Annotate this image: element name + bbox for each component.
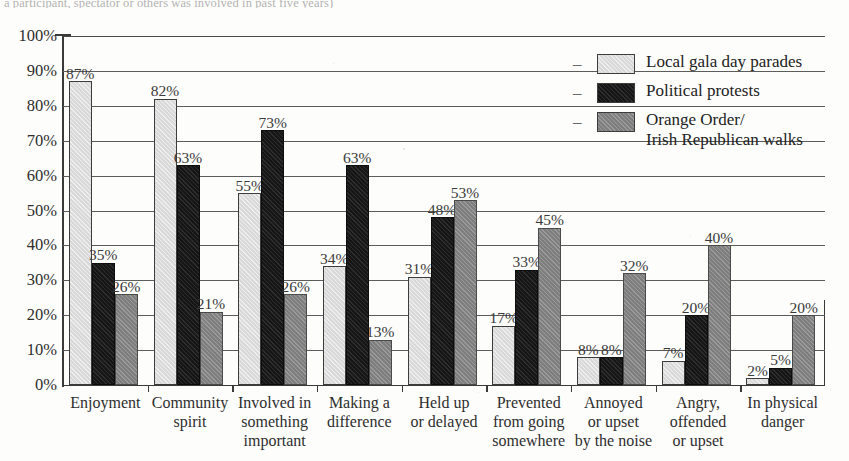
y-tick-label-0: 0% bbox=[3, 377, 57, 394]
bar-value-label: 40% bbox=[705, 230, 733, 246]
y-tick-label-100: 100% bbox=[3, 28, 57, 45]
x-category-label: Annoyed or upset by the noise bbox=[567, 393, 660, 450]
bar-group: 34%63%13% bbox=[323, 36, 392, 385]
bar-value-label: 31% bbox=[405, 261, 433, 277]
x-tick-mark bbox=[232, 385, 233, 392]
legend-swatch-protests bbox=[597, 83, 635, 103]
bar: 8% bbox=[577, 357, 600, 385]
bar: 40% bbox=[708, 245, 731, 385]
scan-artifact bbox=[56, 388, 58, 390]
bar: 31% bbox=[408, 277, 431, 385]
x-category-label: Community spirit bbox=[144, 393, 237, 431]
bar-value-label: 63% bbox=[174, 150, 202, 166]
scan-artifact bbox=[690, 236, 691, 237]
x-tick-mark bbox=[148, 385, 149, 392]
scan-artifact bbox=[333, 63, 334, 64]
x-category-label: Prevented from going somewhere bbox=[482, 393, 575, 450]
y-tick-label-70: 70% bbox=[3, 132, 57, 149]
bar-value-label: 20% bbox=[682, 300, 710, 316]
y-tick-label-80: 80% bbox=[3, 98, 57, 115]
bar-value-label: 32% bbox=[620, 258, 648, 274]
bar: 26% bbox=[115, 294, 138, 385]
bar-value-label: 5% bbox=[770, 352, 791, 368]
bar: 7% bbox=[662, 361, 685, 385]
bar: 26% bbox=[284, 294, 307, 385]
legend-item[interactable]: –Political protests– bbox=[597, 81, 847, 103]
x-tick-mark bbox=[402, 385, 403, 392]
x-tick-mark bbox=[486, 385, 487, 392]
bar-value-label: 20% bbox=[789, 300, 817, 316]
bar-value-label: 26% bbox=[281, 279, 309, 295]
y-tick-label-60: 60% bbox=[3, 167, 57, 184]
bar: 48% bbox=[431, 217, 454, 385]
bar-group: 55%73%26% bbox=[238, 36, 307, 385]
bar-value-label: 35% bbox=[89, 247, 117, 263]
bar-value-label: 2% bbox=[747, 363, 768, 379]
bar: 33% bbox=[515, 270, 538, 385]
chart-page: a participant, spectator or others was i… bbox=[0, 0, 849, 461]
x-category-label: Held up or delayed bbox=[398, 393, 491, 431]
bar: 8% bbox=[600, 357, 623, 385]
legend-left-dash-icon: – bbox=[573, 83, 582, 103]
x-tick-mark bbox=[571, 385, 572, 392]
bar-value-label: 87% bbox=[66, 66, 94, 82]
y-tick-label-30: 30% bbox=[3, 272, 57, 289]
bar: 20% bbox=[685, 315, 708, 385]
bar: 34% bbox=[323, 266, 346, 385]
gridline-0 bbox=[63, 385, 825, 386]
bar: 5% bbox=[769, 368, 792, 385]
bar-group: 87%35%26% bbox=[69, 36, 138, 385]
bar: 21% bbox=[200, 312, 223, 385]
bar: 32% bbox=[623, 273, 646, 385]
x-category-label: Making a difference bbox=[313, 393, 406, 431]
bar: 73% bbox=[261, 130, 284, 385]
bar-value-label: 7% bbox=[663, 345, 684, 361]
bar: 53% bbox=[454, 200, 477, 385]
chart-legend: –Local gala day parades––Political prote… bbox=[597, 52, 847, 157]
bar: 87% bbox=[69, 81, 92, 385]
bar-value-label: 34% bbox=[320, 251, 348, 267]
legend-item-label: Orange Order/ Irish Republican walks bbox=[646, 110, 803, 150]
bar-value-label: 8% bbox=[601, 342, 622, 358]
bar: 63% bbox=[346, 165, 369, 385]
x-tick-mark bbox=[317, 385, 318, 392]
x-axis-category-labels: EnjoymentCommunity spiritInvolved in som… bbox=[63, 393, 825, 461]
bar-value-label: 21% bbox=[197, 296, 225, 312]
legend-item[interactable]: –Orange Order/ Irish Republican walks– bbox=[597, 110, 847, 150]
bar-value-label: 82% bbox=[151, 83, 179, 99]
legend-item[interactable]: –Local gala day parades– bbox=[597, 52, 847, 74]
x-category-label: In physical danger bbox=[736, 393, 829, 431]
x-category-label: Enjoyment bbox=[59, 393, 152, 412]
bar: 13% bbox=[369, 340, 392, 385]
bar-value-label: 48% bbox=[428, 202, 456, 218]
legend-left-dash-icon: – bbox=[573, 54, 582, 74]
x-category-label: Involved in something important bbox=[228, 393, 321, 450]
x-tick-mark bbox=[740, 385, 741, 392]
bar: 17% bbox=[492, 326, 515, 385]
bar-value-label: 8% bbox=[578, 342, 599, 358]
bar-value-label: 17% bbox=[489, 310, 517, 326]
bar-value-label: 26% bbox=[112, 279, 140, 295]
scan-artifact bbox=[403, 148, 405, 150]
bar: 45% bbox=[538, 228, 561, 385]
scan-artifact bbox=[478, 392, 479, 393]
bar-value-label: 45% bbox=[535, 212, 563, 228]
bar-value-label: 33% bbox=[512, 254, 540, 270]
bar-group: 17%33%45% bbox=[492, 36, 561, 385]
legend-left-dash-icon: – bbox=[573, 112, 582, 132]
legend-item-label: Local gala day parades bbox=[646, 52, 802, 72]
legend-item-label: Political protests bbox=[646, 81, 760, 101]
y-tick-label-20: 20% bbox=[3, 307, 57, 324]
bar-value-label: 13% bbox=[366, 324, 394, 340]
y-axis-tick-labels: 100%90%80%70%60%50%40%30%20%10%0% bbox=[0, 36, 57, 385]
bar-value-label: 53% bbox=[451, 185, 479, 201]
legend-swatch-gala bbox=[597, 54, 635, 74]
bar-value-label: 63% bbox=[343, 150, 371, 166]
scan-artifact bbox=[236, 404, 237, 405]
legend-swatch-walks bbox=[597, 112, 635, 132]
y-tick-label-40: 40% bbox=[3, 237, 57, 254]
bar-value-label: 73% bbox=[258, 115, 286, 131]
bar-value-label: 55% bbox=[235, 178, 263, 194]
x-category-label: Angry, offended or upset bbox=[652, 393, 745, 450]
bar: 82% bbox=[154, 99, 177, 385]
